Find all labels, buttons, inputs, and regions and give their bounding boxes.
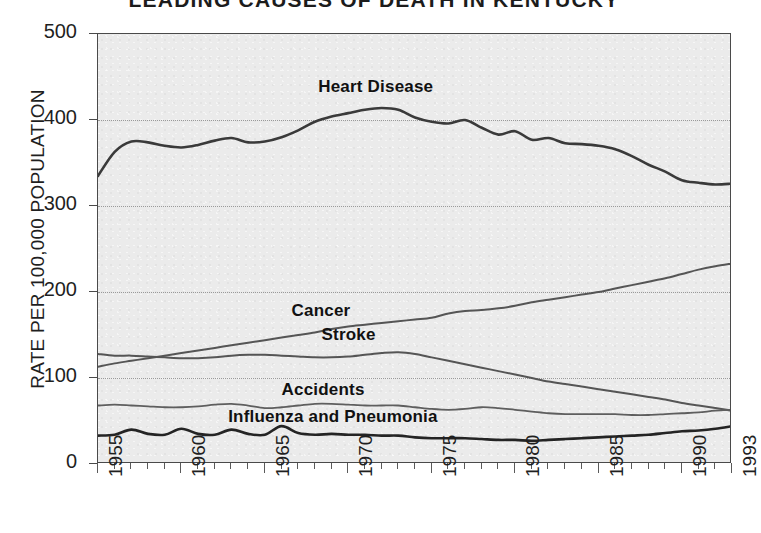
x-tick-mark-1973 [397,463,398,469]
x-tick-mark-1988 [648,463,649,469]
x-tick-mark-1982 [547,463,548,469]
x-tick-mark-1992 [714,463,715,469]
x-tick-mark-1962 [214,463,215,469]
x-tick-mark-1968 [314,463,315,469]
x-tick-mark-1957 [130,463,131,469]
x-tick-mark-1959 [164,463,165,469]
x-tick-label-1985: 1985 [606,435,628,477]
x-tick-mark-1960 [180,463,181,473]
x-tick-mark-1963 [230,463,231,469]
x-tick-mark-1958 [147,463,148,469]
x-tick-mark-1977 [464,463,465,469]
x-tick-mark-1955 [97,463,98,473]
x-tick-label-1960: 1960 [188,435,210,477]
x-tick-label-1965: 1965 [272,435,294,477]
x-tick-mark-1975 [431,463,432,473]
x-tick-mark-1985 [598,463,599,473]
x-tick-mark-1978 [481,463,482,469]
x-tick-mark-1972 [381,463,382,469]
x-tick-mark-1974 [414,463,415,469]
x-tick-mark-1984 [581,463,582,469]
x-tick-mark-1989 [664,463,665,469]
x-tick-label-1975: 1975 [439,435,461,477]
x-tick-label-1955: 1955 [105,435,127,477]
x-tick-mark-1970 [347,463,348,473]
x-tick-label-1980: 1980 [522,435,544,477]
x-tick-mark-1987 [631,463,632,469]
x-tick-mark-1969 [331,463,332,469]
x-tick-mark-1964 [247,463,248,469]
x-tick-mark-1980 [514,463,515,473]
x-tick-label-1990: 1990 [689,435,711,477]
x-tick-mark-1993 [731,463,732,473]
x-tick-mark-1965 [264,463,265,473]
x-tick-mark-1990 [681,463,682,473]
x-tick-label-1993: 1993 [739,435,761,477]
x-tick-mark-1979 [497,463,498,469]
x-tick-mark-1983 [564,463,565,469]
x-tick-label-1970: 1970 [355,435,377,477]
x-tick-mark-1967 [297,463,298,469]
